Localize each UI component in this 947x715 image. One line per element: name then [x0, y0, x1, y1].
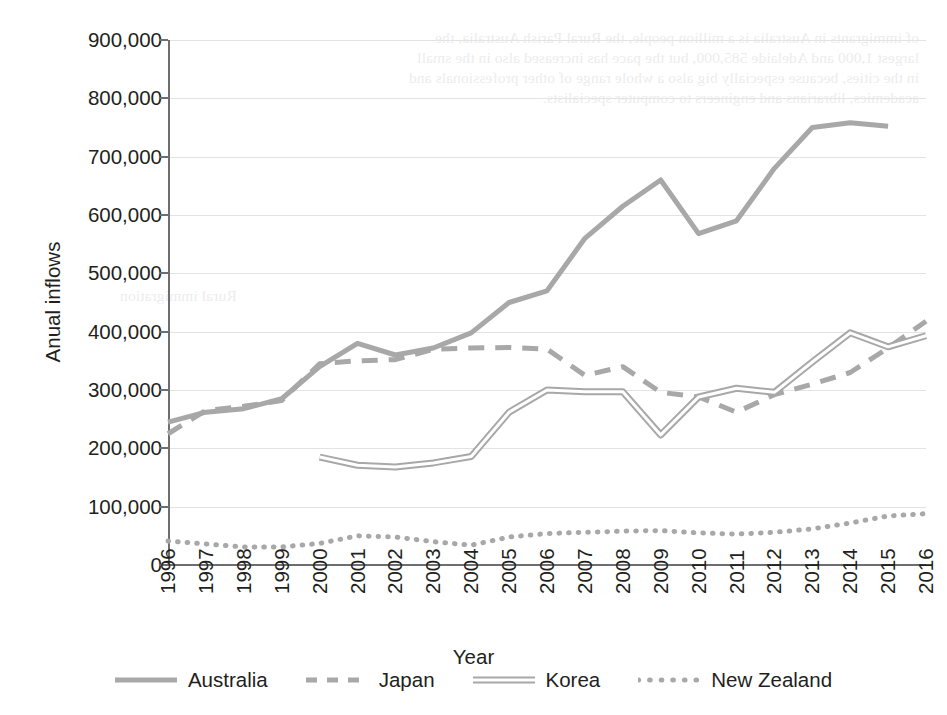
x-tick-label: 2005	[498, 572, 520, 594]
legend-item-new-zealand[interactable]: New Zealand	[638, 668, 832, 692]
x-tick-label: 2004	[460, 572, 482, 594]
legend-item-japan[interactable]: Japan	[306, 668, 435, 692]
x-tick-label: 2007	[574, 572, 596, 594]
x-tick-label: 2003	[422, 572, 444, 594]
x-tick-label: 2013	[801, 572, 823, 594]
x-tick-label: 2000	[309, 572, 331, 594]
x-tick-label: 2006	[536, 572, 558, 594]
y-axis-tick-labels: 0100,000200,000300,000400,000500,000600,…	[52, 40, 162, 565]
y-tick-label: 200,000	[52, 438, 162, 459]
series-line-japan	[168, 321, 926, 434]
y-tick-mark	[159, 447, 168, 449]
y-tick-mark	[159, 331, 168, 333]
y-tick-label: 100,000	[52, 497, 162, 518]
y-tick-label: 500,000	[52, 263, 162, 284]
y-tick-mark	[159, 506, 168, 508]
y-tick-mark	[159, 97, 168, 99]
x-tick-label: 2011	[726, 572, 748, 594]
x-axis-title: Year	[0, 645, 947, 669]
y-tick-mark	[159, 214, 168, 216]
y-tick-label: 600,000	[52, 205, 162, 226]
legend-label: Australia	[188, 668, 268, 692]
x-tick-label: 2012	[763, 572, 785, 594]
x-tick-label: 2010	[688, 572, 710, 594]
legend-item-korea[interactable]: Korea	[473, 668, 601, 692]
x-tick-label: 1996	[157, 572, 179, 594]
y-tick-label: 900,000	[52, 30, 162, 51]
legend-item-australia[interactable]: Australia	[115, 668, 268, 692]
legend-label: Japan	[379, 668, 435, 692]
x-tick-label: 2014	[839, 572, 861, 594]
x-axis-tick-labels: 1996199719981999200020012002200320042005…	[168, 572, 926, 652]
x-tick-label: 2002	[384, 572, 406, 594]
legend-swatch-double-icon	[473, 673, 535, 687]
y-tick-label: 400,000	[52, 322, 162, 343]
y-tick-label: 700,000	[52, 147, 162, 168]
x-tick-label: 1999	[271, 572, 293, 594]
series-lines	[168, 40, 926, 565]
chart-legend: AustraliaJapanKoreaNew Zealand	[0, 668, 947, 692]
x-tick-label: 2008	[612, 572, 634, 594]
legend-swatch-solid-icon	[115, 673, 177, 687]
x-tick-label: 1997	[195, 572, 217, 594]
x-tick-label: 2016	[915, 572, 937, 594]
x-tick-label: 2015	[877, 572, 899, 594]
y-tick-label: 300,000	[52, 380, 162, 401]
legend-label: New Zealand	[711, 668, 832, 692]
y-tick-mark	[159, 389, 168, 391]
y-tick-mark	[159, 156, 168, 158]
y-tick-mark	[159, 39, 168, 41]
y-tick-label: 0	[52, 555, 162, 576]
y-tick-mark	[159, 272, 168, 274]
plot-area	[168, 40, 926, 565]
legend-swatch-dotted-icon	[638, 673, 700, 687]
series-line-new-zealand	[168, 514, 926, 547]
y-tick-label: 800,000	[52, 88, 162, 109]
line-chart: Anual inflows 0100,000200,000300,000400,…	[0, 0, 947, 715]
x-tick-label: 2009	[650, 572, 672, 594]
series-line-australia	[168, 123, 888, 422]
x-tick-label: 1998	[233, 572, 255, 594]
legend-swatch-dashed-icon	[306, 673, 368, 687]
x-tick-label: 2001	[347, 572, 369, 594]
legend-label: Korea	[546, 668, 601, 692]
